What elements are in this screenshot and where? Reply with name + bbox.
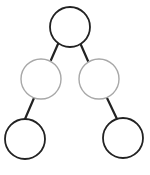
node-mid-left <box>21 59 61 99</box>
edge-mid-right-to-leaf-right <box>107 98 117 119</box>
tree-nodes <box>5 7 143 159</box>
node-leaf-left <box>5 119 45 159</box>
edge-mid-left-to-leaf-left <box>25 98 34 119</box>
edge-root-to-mid-right <box>81 45 88 61</box>
edge-root-to-mid-left <box>51 44 58 60</box>
node-root <box>50 7 90 47</box>
node-mid-right <box>79 59 119 99</box>
node-leaf-right <box>103 118 143 158</box>
binary-tree-diagram <box>0 0 150 175</box>
